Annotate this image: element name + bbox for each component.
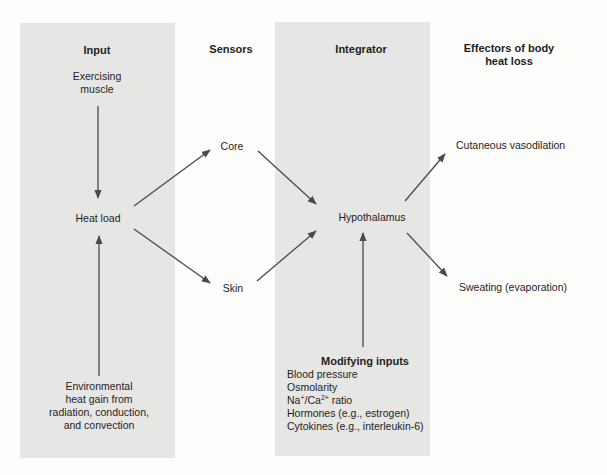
effectors-heading-line1: Effectors of body [464, 42, 554, 55]
arrow-hypothalamus-to-sweating [407, 233, 447, 276]
hypothalamus-node: Hypothalamus [338, 211, 405, 224]
input-heading: Input [84, 44, 111, 57]
modifier-item: Cytokines (e.g., interleukin-6) [287, 420, 424, 433]
arrow-heatload-to-skin [134, 229, 210, 283]
exercising-muscle-line2: muscle [73, 83, 121, 96]
exercising-muscle-line1: Exercising [73, 70, 121, 83]
calcium-charge: 2+ [321, 394, 329, 401]
heat-load-node: Heat load [76, 212, 121, 225]
exercising-muscle-node: Exercising muscle [73, 70, 121, 96]
skin-node: Skin [223, 282, 243, 295]
environmental-line4: and convection [49, 419, 149, 432]
arrow-hypothalamus-to-vasodilation [405, 154, 445, 201]
calcium-symbol: /Ca [305, 394, 321, 406]
effectors-heading-line2: heat loss [464, 55, 554, 68]
cutaneous-vasodilation-node: Cutaneous vasodilation [456, 139, 565, 152]
integrator-heading: Integrator [335, 43, 386, 56]
environmental-heat-node: Environmental heat gain from radiation, … [49, 380, 149, 432]
modifier-item: Blood pressure [287, 368, 424, 381]
arrow-core-to-hypothalamus [258, 151, 316, 204]
sensors-heading: Sensors [209, 43, 252, 56]
modifying-inputs-heading: Modifying inputs [321, 355, 409, 368]
modifier-item: Hormones (e.g., estrogen) [287, 407, 424, 420]
modifying-inputs-list: Blood pressure Osmolarity Na+/Ca2+ ratio… [287, 368, 424, 433]
sweating-node: Sweating (evaporation) [459, 281, 567, 294]
core-node: Core [221, 140, 244, 153]
sodium-symbol: Na [287, 394, 300, 406]
arrow-skin-to-hypothalamus [257, 231, 316, 281]
modifier-item: Osmolarity [287, 381, 424, 394]
modifier-item: Na+/Ca2+ ratio [287, 394, 424, 407]
environmental-line1: Environmental [49, 380, 149, 393]
effectors-heading: Effectors of body heat loss [464, 42, 554, 68]
arrow-heatload-to-core [134, 150, 210, 206]
ratio-label: ratio [329, 394, 352, 406]
environmental-line2: heat gain from [49, 393, 149, 406]
environmental-line3: radiation, conduction, [49, 406, 149, 419]
